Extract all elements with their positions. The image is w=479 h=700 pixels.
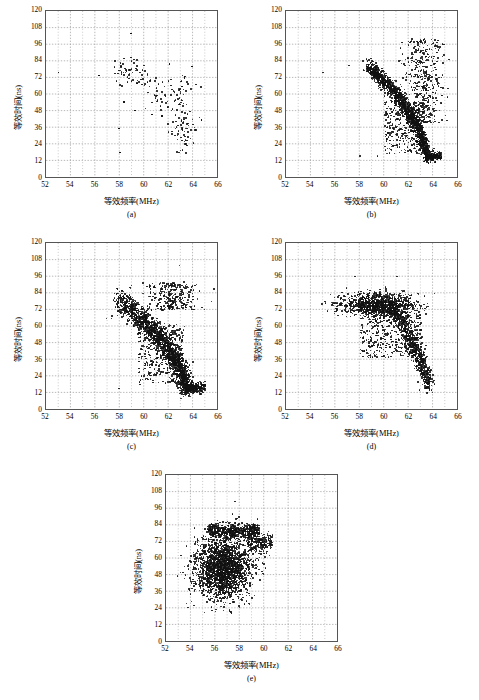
data-point (264, 544, 265, 545)
data-point (206, 596, 207, 597)
data-point (111, 315, 112, 316)
data-point (227, 556, 228, 557)
data-point (158, 369, 159, 370)
data-point (189, 111, 191, 113)
data-point (180, 385, 181, 386)
data-point (247, 537, 248, 538)
data-point (233, 560, 234, 561)
data-point (416, 313, 417, 314)
panel-b-points (286, 11, 457, 177)
data-point (400, 84, 401, 85)
y-tick-label: 12 (2, 389, 42, 396)
data-point (362, 326, 363, 327)
data-point (154, 298, 155, 299)
data-point (223, 606, 224, 607)
data-point (440, 87, 441, 88)
data-point (151, 299, 152, 300)
data-point (335, 308, 336, 309)
data-point (384, 330, 385, 331)
data-point (125, 72, 127, 74)
data-point (377, 318, 378, 319)
data-point (420, 315, 421, 316)
data-point (337, 302, 338, 303)
data-point (380, 344, 381, 345)
data-point (165, 327, 166, 328)
data-point (203, 562, 204, 563)
data-point (448, 59, 449, 60)
data-point (204, 309, 205, 310)
data-point (171, 289, 172, 290)
x-tick-label: 66 (214, 413, 221, 420)
data-point (162, 359, 163, 360)
data-point (216, 539, 217, 540)
data-point (400, 122, 401, 123)
data-point (142, 379, 143, 380)
data-point (430, 96, 431, 97)
data-point (202, 590, 203, 591)
y-tick-label: 12 (242, 157, 282, 164)
data-point (164, 308, 165, 309)
data-point (363, 304, 364, 305)
data-point (140, 336, 141, 337)
data-point (378, 331, 379, 332)
data-point (205, 547, 206, 548)
data-point (362, 60, 363, 61)
data-point (400, 110, 401, 111)
data-point (410, 320, 411, 321)
data-point (360, 337, 361, 338)
data-point (434, 45, 435, 46)
data-point (399, 109, 400, 110)
data-point (372, 61, 373, 62)
y-tick-label: 48 (2, 339, 42, 346)
data-point (386, 326, 387, 327)
data-point (234, 552, 235, 553)
data-point (407, 323, 408, 324)
data-point (168, 372, 169, 373)
data-point (402, 77, 403, 78)
data-point (423, 157, 424, 158)
data-point (164, 86, 166, 88)
data-point (159, 298, 160, 299)
data-point (221, 582, 222, 583)
data-point (426, 70, 427, 71)
data-point (384, 95, 385, 96)
data-point (416, 329, 417, 330)
x-tick-label: 58 (115, 181, 122, 188)
data-point (396, 331, 397, 332)
data-point (370, 350, 371, 351)
data-point (417, 381, 418, 382)
data-point (174, 298, 175, 299)
data-point (179, 340, 180, 341)
data-point (159, 374, 160, 375)
data-point (117, 288, 118, 289)
data-point (201, 592, 202, 593)
data-point (255, 529, 256, 530)
data-point (394, 153, 395, 154)
data-point (235, 589, 236, 590)
data-point (149, 86, 151, 88)
data-point (149, 375, 150, 376)
data-point (146, 286, 147, 287)
data-point (399, 143, 400, 144)
data-point (130, 57, 132, 59)
data-point (415, 130, 416, 131)
data-point (128, 78, 130, 80)
data-point (374, 351, 375, 352)
data-point (410, 317, 411, 318)
data-point (362, 356, 363, 357)
data-point (188, 388, 189, 389)
data-point (144, 334, 145, 335)
data-point (367, 289, 368, 290)
data-point (363, 318, 364, 319)
data-point (193, 309, 194, 310)
y-tick-label: 120 (242, 6, 282, 13)
panel-a-plot-frame (45, 10, 218, 178)
data-point (419, 102, 420, 103)
data-point (213, 532, 214, 533)
data-point (385, 288, 386, 289)
data-point (204, 550, 205, 551)
data-point (439, 48, 440, 49)
data-point (192, 293, 193, 294)
data-point (199, 391, 200, 392)
data-point (423, 362, 424, 363)
